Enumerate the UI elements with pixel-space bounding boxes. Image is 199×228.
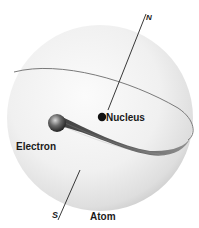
atom-label: Atom bbox=[90, 211, 116, 222]
electron-label: Electron bbox=[16, 141, 56, 152]
nucleus-icon bbox=[98, 113, 106, 121]
electron-icon bbox=[48, 114, 66, 132]
south-pole-label: S bbox=[52, 210, 58, 220]
atom-diagram: Nucleus Electron Atom N S bbox=[0, 0, 199, 228]
nucleus-label: Nucleus bbox=[106, 112, 145, 123]
north-pole-label: N bbox=[146, 13, 152, 22]
atom-illustration bbox=[0, 0, 199, 228]
